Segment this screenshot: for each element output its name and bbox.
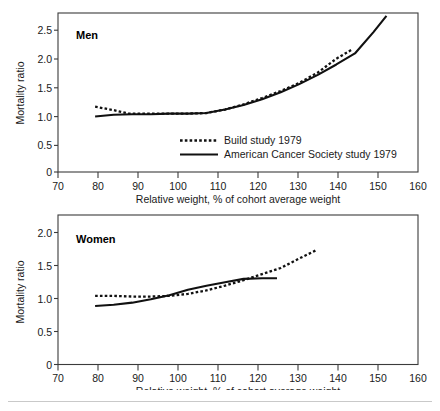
men-x-tick-70: 70 [52, 180, 64, 192]
women-x-tick-130: 130 [289, 372, 307, 384]
men-x-tick-120: 120 [249, 180, 267, 192]
men-x-tick-110: 110 [210, 180, 227, 192]
figure-container: Mortality ratio 0 0.5 1.0 1.5 2.0 2.5 [0, 0, 440, 411]
women-x-axis-title: Relative weight, % of cohort average wei… [136, 385, 340, 390]
men-x-axis-title: Relative weight, % of cohort average wei… [136, 193, 340, 205]
men-y-ticks [54, 30, 58, 172]
women-y-tick-1.0: 1.0 [37, 293, 52, 305]
men-y-tick-0.5: 0.5 [37, 139, 52, 151]
men-series-acs-line [95, 16, 386, 117]
chart-panel-men: Mortality ratio 0 0.5 1.0 1.5 2.0 2.5 [0, 0, 440, 205]
men-y-tick-1.0: 1.0 [37, 111, 52, 123]
women-y-tick-2.0: 2.0 [37, 227, 52, 239]
men-series-build-line [95, 50, 351, 114]
men-x-tick-160: 160 [409, 180, 427, 192]
men-x-tick-100: 100 [169, 180, 187, 192]
men-y-tick-1.5: 1.5 [37, 82, 52, 94]
men-x-ticks [58, 172, 378, 178]
women-x-tick-140: 140 [329, 372, 347, 384]
men-x-tick-150: 150 [369, 180, 387, 192]
women-series-build-line [95, 250, 316, 296]
men-x-tick-90: 90 [132, 180, 144, 192]
legend-label-build: Build study 1979 [224, 134, 302, 146]
women-x-tick-100: 100 [169, 372, 187, 384]
women-x-tick-120: 120 [249, 372, 267, 384]
women-x-tick-150: 150 [369, 372, 387, 384]
footer-divider [8, 401, 432, 402]
women-y-tick-0.5: 0.5 [37, 326, 52, 338]
men-y-tick-2.5: 2.5 [37, 24, 52, 36]
men-y-tick-2.0: 2.0 [37, 53, 52, 65]
women-x-tick-110: 110 [210, 372, 227, 384]
men-y-tick-0: 0 [46, 166, 52, 178]
women-y-tick-1.5: 1.5 [37, 260, 52, 272]
legend-label-acs: American Cancer Society study 1979 [224, 148, 397, 160]
women-x-ticks [58, 365, 378, 371]
men-x-tick-80: 80 [92, 180, 104, 192]
women-x-tick-80: 80 [92, 372, 104, 384]
chart-panel-women: Mortality ratio 0 0.5 1.0 1.5 2.0 [0, 205, 440, 390]
women-panel-label: Women [76, 233, 116, 245]
women-x-tick-70: 70 [52, 372, 64, 384]
men-x-tick-140: 140 [329, 180, 347, 192]
women-x-tick-90: 90 [132, 372, 144, 384]
women-y-ticks [54, 233, 58, 365]
women-y-axis-title: Mortality ratio [14, 260, 26, 323]
women-series-acs-line [95, 278, 277, 306]
men-y-axis-title: Mortality ratio [14, 61, 26, 124]
women-x-tick-160: 160 [409, 372, 427, 384]
men-x-tick-130: 130 [289, 180, 307, 192]
women-chart-svg: Mortality ratio 0 0.5 1.0 1.5 2.0 [0, 205, 440, 390]
men-panel-label: Men [76, 29, 98, 41]
legend: Build study 1979 American Cancer Society… [180, 134, 397, 160]
men-chart-svg: Mortality ratio 0 0.5 1.0 1.5 2.0 2.5 [0, 0, 440, 205]
women-y-tick-0: 0 [46, 359, 52, 371]
